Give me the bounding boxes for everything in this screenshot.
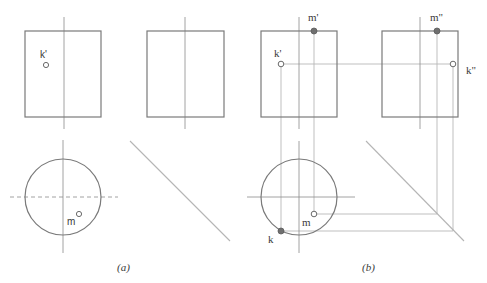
- point-k-prime: [278, 61, 284, 67]
- panel-b: m' k' m" k" m k (b): [247, 11, 476, 274]
- label-k-prime: k': [40, 49, 47, 60]
- point-m-prime: [311, 28, 317, 34]
- side-view-rectangle: [147, 31, 224, 117]
- projection-lines: [281, 31, 453, 231]
- point-k-prime: [43, 62, 48, 67]
- panel-b-front-view: m' k': [261, 11, 337, 129]
- point-m-double-prime: [434, 28, 440, 34]
- front-view-rectangle: [25, 31, 101, 117]
- projection-diagram: k' m (a): [0, 0, 487, 283]
- caption-b: (b): [362, 261, 375, 274]
- label-m: m: [67, 216, 75, 227]
- point-m: [76, 211, 81, 216]
- panel-a: k' m (a): [10, 17, 230, 274]
- label-m-prime: m': [308, 11, 319, 23]
- caption-a: (a): [117, 261, 130, 274]
- label-k-double-prime: k": [466, 64, 476, 76]
- panel-a-side-view: [147, 17, 224, 129]
- point-m: [311, 211, 317, 217]
- label-m-double-prime: m": [430, 11, 443, 23]
- miter-line: [130, 141, 230, 241]
- label-k: k: [268, 233, 274, 245]
- point-k: [278, 228, 284, 234]
- panel-a-top-view: m: [10, 140, 118, 253]
- panel-a-front-view: k': [25, 17, 101, 129]
- panel-b-top-view: m k: [247, 141, 355, 253]
- miter-line: [366, 141, 464, 241]
- panel-b-side-view: m" k": [382, 11, 476, 129]
- projection-k-miter-path: [284, 67, 453, 231]
- point-k-double-prime: [450, 61, 456, 67]
- label-k-prime: k': [274, 47, 282, 59]
- label-m: m: [302, 216, 311, 228]
